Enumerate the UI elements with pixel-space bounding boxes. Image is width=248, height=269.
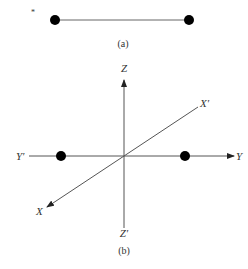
dot-right <box>184 15 194 25</box>
dot-right <box>180 151 190 161</box>
figure-b: Z Z′ Y′ Y X′ X (b) <box>16 62 244 257</box>
x-neg-axis-label: X′ <box>199 97 210 109</box>
z-neg-axis-label: Z′ <box>120 227 129 239</box>
dot-left <box>56 151 66 161</box>
caption-a: (a) <box>117 38 128 50</box>
y-neg-axis-label: Y′ <box>16 150 25 162</box>
dot-left <box>50 15 60 25</box>
figure-a: * (a) <box>31 8 194 50</box>
x-axis-label: X <box>35 205 44 217</box>
asterisk-mark: * <box>31 8 35 17</box>
y-axis-label: Y <box>236 150 244 162</box>
diagram-canvas: * (a) Z Z′ Y′ Y X′ X (b) <box>0 0 248 269</box>
x-axis <box>47 107 198 207</box>
z-axis-label: Z <box>121 62 128 74</box>
caption-b: (b) <box>118 245 130 257</box>
